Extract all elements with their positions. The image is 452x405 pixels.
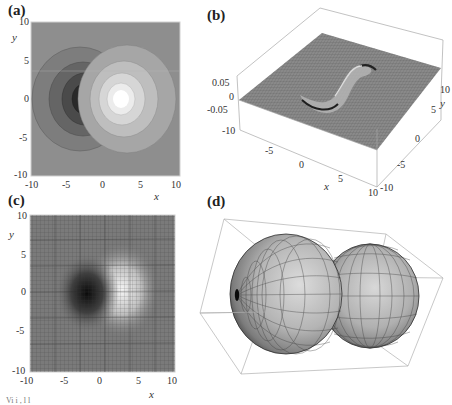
c-ytick-neg5: -5: [16, 326, 24, 336]
b-xtick-neg10: -10: [222, 126, 235, 136]
panel-label-b: (b): [207, 7, 225, 24]
a-xlabel: x: [154, 190, 159, 202]
a-xtick-neg5: -5: [62, 180, 70, 190]
a-xtick-neg10: -10: [25, 180, 38, 190]
a-ylabel: y: [12, 31, 17, 43]
b-ytick-5: 5: [431, 105, 436, 115]
panel-a-contour-plot: [31, 22, 180, 176]
b-ztick-0: 0: [229, 92, 234, 102]
b-ytick-neg10: -10: [380, 183, 393, 193]
a-ytick-0: 0: [24, 94, 29, 104]
panel-d-spheres-plot: [200, 219, 443, 374]
sphere-left: [230, 234, 342, 354]
c-xtick-neg5: -5: [60, 376, 68, 386]
b-ytick-0: 0: [415, 134, 420, 144]
b-ztick-neg0.05: -0.05: [207, 105, 228, 115]
b-xtick-5: 5: [338, 174, 343, 184]
b-ztick-0.05: 0.05: [212, 78, 230, 88]
c-xtick-5: 5: [136, 376, 141, 386]
c-xtick-0: 0: [97, 376, 102, 386]
b-ytick-10: 10: [440, 85, 450, 95]
b-xtick-10: 10: [368, 188, 378, 198]
a-ytick-neg5: -5: [19, 133, 27, 143]
c-ytick-0: 0: [21, 287, 26, 297]
panel-label-d: (d): [207, 193, 225, 210]
b-ylabel: y: [440, 97, 445, 109]
c-xtick-neg10: -10: [20, 376, 33, 386]
a-xtick-10: 10: [171, 180, 181, 190]
c-xlabel: x: [149, 388, 154, 400]
panel-c-density-plot: [30, 215, 175, 372]
b-xtick-neg5: -5: [265, 146, 273, 156]
a-xtick-0: 0: [100, 180, 105, 190]
c-xtick-10: 10: [167, 376, 177, 386]
a-ytick-5: 5: [24, 56, 29, 66]
b-ytick-neg5: -5: [397, 160, 405, 170]
c-ylabel: y: [9, 228, 14, 240]
b-xtick-0: 0: [299, 160, 304, 170]
caption-fragment: Vi i , l l: [6, 396, 30, 405]
a-ytick-10: 10: [19, 17, 29, 27]
a-xtick-5: 5: [138, 180, 143, 190]
c-ytick-5: 5: [21, 250, 26, 260]
b-xlabel: x: [324, 180, 329, 192]
panel-b-surface-plot: [237, 8, 443, 187]
c-ytick-10: 10: [17, 211, 27, 221]
panel-label-c: (c): [8, 192, 25, 209]
